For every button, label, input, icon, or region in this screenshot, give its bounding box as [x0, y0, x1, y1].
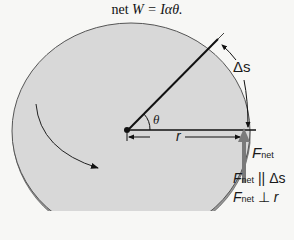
radius-label: r	[176, 128, 181, 144]
force-subscript: net	[261, 150, 274, 160]
relation-parallel: Fnet || Δs	[233, 170, 286, 186]
disc-top	[12, 23, 250, 211]
relation2-sub: net	[242, 194, 255, 204]
relation1-rhs: Δs	[269, 170, 285, 186]
perpendicular-symbol: ⊥	[258, 189, 270, 205]
arc-length-label: Δs	[233, 58, 251, 75]
relation-perpendicular: Fnet ⊥ r	[233, 189, 279, 205]
force-label: Fnet	[252, 144, 274, 161]
relation2-force: F	[233, 189, 242, 205]
parallel-symbol: ||	[258, 170, 265, 186]
pivot-point	[124, 127, 130, 133]
force-symbol: F	[252, 144, 261, 161]
relation2-rhs: r	[274, 189, 279, 205]
arc-tick	[212, 33, 224, 45]
theta-label: θ	[153, 112, 159, 128]
relation1-force: F	[233, 170, 242, 186]
relation1-sub: net	[242, 175, 255, 185]
arc-length-text: Δs	[233, 58, 251, 75]
